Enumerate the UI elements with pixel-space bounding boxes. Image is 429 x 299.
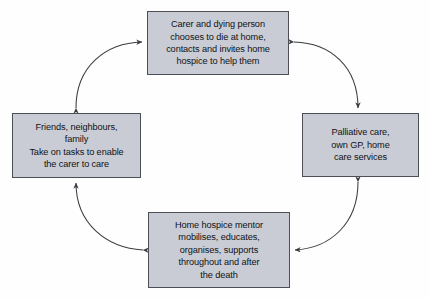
node-bottom-label: Home hospice mentor mobilises, educates,… xyxy=(172,219,266,281)
node-left-label: Friends, neighbours, family Take on task… xyxy=(26,121,126,171)
node-hospice-mentor[interactable]: Home hospice mentor mobilises, educates,… xyxy=(148,212,290,288)
node-top-label: Carer and dying person chooses to die at… xyxy=(163,18,273,68)
node-friends-neighbours-family[interactable]: Friends, neighbours, family Take on task… xyxy=(12,113,141,178)
node-palliative-care[interactable]: Palliative care, own GP, home care servi… xyxy=(302,113,419,177)
node-right-label: Palliative care, own GP, home care servi… xyxy=(328,126,392,163)
bottom-left-arc xyxy=(76,183,143,250)
diagram-canvas: Carer and dying person chooses to die at… xyxy=(0,0,429,299)
top-left-arc xyxy=(76,42,142,108)
bottom-right-arc xyxy=(295,182,358,250)
node-carer-chooses-home[interactable]: Carer and dying person chooses to die at… xyxy=(147,11,289,75)
top-right-arc xyxy=(294,42,358,108)
